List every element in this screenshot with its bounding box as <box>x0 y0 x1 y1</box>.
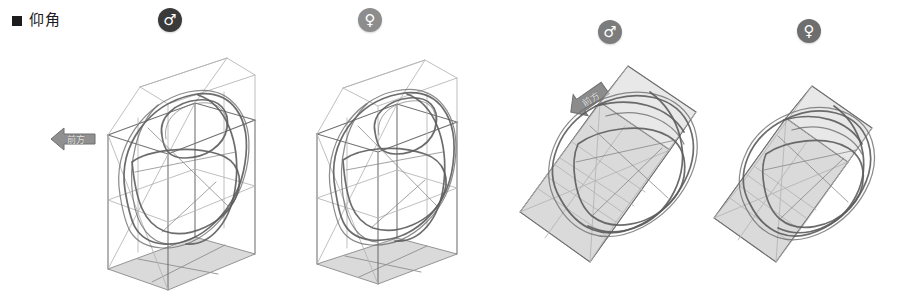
page-title: 仰角 <box>12 13 60 28</box>
figure-female-tilted <box>700 58 910 288</box>
badge-female-figure-4: ♀ <box>797 19 821 43</box>
figure-male-upright <box>40 32 270 294</box>
direction-arrow-label: 前方 <box>61 133 85 146</box>
female-symbol-icon: ♀ <box>365 13 376 28</box>
page-root: 仰角 ♂ ♀ ♂ ♀ 前方 前方 <box>0 0 910 307</box>
badge-male-figure-1: ♂ <box>158 8 182 32</box>
square-bullet-icon <box>12 16 22 26</box>
female-symbol-icon: ♀ <box>804 24 815 39</box>
page-title-text: 仰角 <box>29 13 60 28</box>
figure-female-upright <box>245 32 475 294</box>
male-symbol-icon: ♂ <box>163 13 176 28</box>
floor-plane <box>108 237 255 290</box>
floor-plane <box>317 238 457 284</box>
figure-male-tilted <box>500 40 730 290</box>
badge-female-figure-2: ♀ <box>358 8 382 32</box>
male-symbol-icon: ♂ <box>603 25 616 40</box>
